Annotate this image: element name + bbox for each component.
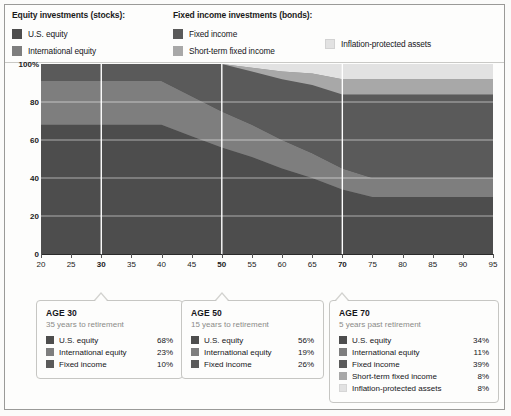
plot-area: 020406080100% 20253035404550556065707580…: [5, 64, 504, 276]
x-axis-tick-label: 70: [338, 260, 347, 269]
callout-allocation-row: International equity11%: [339, 346, 489, 358]
callout-allocation-row: Short-term fixed income8%: [339, 370, 489, 382]
callout-title: AGE 70: [339, 308, 489, 318]
x-axis-tick: [252, 254, 253, 258]
legend-swatch-icon: [173, 29, 183, 39]
callout-swatch-icon: [339, 384, 347, 392]
callout-asset-value: 8%: [469, 384, 489, 393]
legend-group-title: Equity investments (stocks):: [12, 10, 125, 20]
callout-swatch-icon: [46, 348, 54, 356]
callout-swatch-icon: [339, 360, 347, 368]
x-axis-tick: [192, 254, 193, 258]
legend-item-label: U.S. equity: [28, 29, 67, 39]
x-axis-tick-label: 60: [278, 260, 287, 269]
x-axis-tick: [282, 254, 283, 258]
callout-allocation-row: U.S. equity68%: [46, 334, 173, 346]
callout-asset-label: International equity: [352, 348, 420, 357]
callout-allocation-row: Fixed income39%: [339, 358, 489, 370]
callout-asset-label: Fixed income: [352, 360, 400, 369]
y-axis-tick-label: 60: [30, 136, 39, 145]
x-axis-tick-label: 40: [157, 260, 166, 269]
x-axis-tick: [342, 254, 343, 258]
callout-asset-label: Fixed income: [59, 360, 107, 369]
legend-item-label: Inflation-protected assets: [341, 39, 431, 49]
x-axis-line: [41, 254, 493, 255]
legend-swatch-icon: [173, 46, 183, 56]
x-axis-tick-label: 90: [458, 260, 467, 269]
callout-subtitle: 5 years past retirement: [339, 320, 489, 329]
callout-asset-label: U.S. equity: [352, 336, 391, 345]
x-axis-tick: [403, 254, 404, 258]
x-axis-tick-label: 25: [67, 260, 76, 269]
x-axis-tick-label: 75: [368, 260, 377, 269]
x-axis-tick-label: 20: [37, 260, 46, 269]
legend-group-title: Fixed income investments (bonds):: [173, 10, 312, 20]
callout-asset-value: 23%: [149, 348, 173, 357]
y-axis-tick-label: 20: [30, 212, 39, 221]
x-axis-tick-label: 30: [97, 260, 106, 269]
callout-swatch-icon: [339, 348, 347, 356]
x-axis-tick-label: 95: [489, 260, 498, 269]
x-axis-tick: [312, 254, 313, 258]
callout-row: AGE 3035 years to retirementU.S. equity6…: [5, 292, 504, 404]
x-axis-tick: [433, 254, 434, 258]
callout-pointer-icon: [94, 292, 108, 300]
legend-item-us-equity: U.S. equity: [12, 26, 125, 41]
chart-page: Equity investments (stocks): U.S. equity…: [0, 0, 511, 416]
legend-group-fixed-income: Fixed income investments (bonds): Fixed …: [173, 10, 312, 60]
callout-asset-value: 8%: [469, 372, 489, 381]
callout-swatch-icon: [191, 336, 199, 344]
x-axis-tick-label: 55: [247, 260, 256, 269]
callout-asset-value: 34%: [465, 336, 489, 345]
x-axis-tick: [41, 254, 42, 258]
x-axis-tick: [131, 254, 132, 258]
callout-asset-label: International equity: [204, 348, 272, 357]
callout-allocation-row: Fixed income26%: [191, 358, 314, 370]
area-chart-svg: [41, 64, 493, 254]
callout-subtitle: 15 years to retirement: [191, 320, 314, 329]
callout-allocation-row: U.S. equity34%: [339, 334, 489, 346]
callout-asset-value: 19%: [290, 348, 314, 357]
callout-asset-value: 56%: [290, 336, 314, 345]
callout-asset-value: 26%: [290, 360, 314, 369]
legend-item-label: International equity: [28, 46, 96, 56]
callout-allocation-row: Fixed income10%: [46, 358, 173, 370]
y-axis: 020406080100%: [5, 64, 39, 254]
y-axis-tick-label: 100%: [19, 60, 39, 69]
callout-asset-value: 68%: [149, 336, 173, 345]
callout-asset-label: International equity: [59, 348, 127, 357]
callout-pointer-icon: [335, 292, 349, 300]
legend-item-label: Short-term fixed income: [189, 46, 275, 56]
legend-group-equity: Equity investments (stocks): U.S. equity…: [12, 10, 125, 60]
legend-item-inflation-protected-assets: Inflation-protected assets: [325, 36, 431, 51]
callout-asset-value: 39%: [465, 360, 489, 369]
callout-card[interactable]: AGE 5015 years to retirementU.S. equity5…: [181, 300, 324, 379]
x-axis-tick-label: 85: [428, 260, 437, 269]
callout-card[interactable]: AGE 705 years past retirementU.S. equity…: [329, 300, 499, 403]
callout-title: AGE 30: [46, 308, 173, 318]
callout-card[interactable]: AGE 3035 years to retirementU.S. equity6…: [36, 300, 183, 379]
stacked-area-chart: [41, 64, 493, 254]
callout-swatch-icon: [191, 360, 199, 368]
legend-item-international-equity: International equity: [12, 43, 125, 58]
x-axis-tick: [222, 254, 223, 258]
callout-swatch-icon: [46, 336, 54, 344]
callout-subtitle: 35 years to retirement: [46, 320, 173, 329]
x-axis-tick: [162, 254, 163, 258]
x-axis-tick: [493, 254, 494, 258]
y-axis-tick-label: 80: [30, 98, 39, 107]
callout-swatch-icon: [191, 348, 199, 356]
callout-swatch-icon: [339, 372, 347, 380]
callout-pointer-icon: [215, 292, 229, 300]
callout-asset-value: 11%: [466, 348, 489, 357]
callout-asset-label: Fixed income: [204, 360, 252, 369]
x-axis-tick-label: 45: [187, 260, 196, 269]
x-axis-tick-label: 50: [217, 260, 226, 269]
legend-swatch-icon: [325, 39, 335, 49]
legend: Equity investments (stocks): U.S. equity…: [5, 5, 504, 63]
callout-asset-label: Inflation-protected assets: [352, 384, 441, 393]
legend-item-label: Fixed income: [189, 29, 237, 39]
x-axis-tick-label: 35: [127, 260, 136, 269]
x-axis-tick: [71, 254, 72, 258]
callout-asset-label: U.S. equity: [59, 336, 98, 345]
